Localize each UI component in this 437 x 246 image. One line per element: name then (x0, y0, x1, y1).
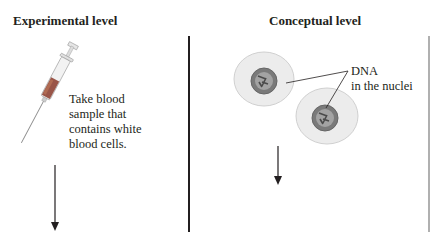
dna-callout-label: DNA in the nuclei (351, 64, 413, 94)
arrow-down-icon (274, 146, 282, 185)
white-blood-cells-icon (234, 52, 358, 144)
blood-sample-step-text: Take blood sample that contains white bl… (69, 92, 142, 152)
arrow-down-icon (51, 165, 59, 231)
illustration-layer (0, 0, 437, 246)
